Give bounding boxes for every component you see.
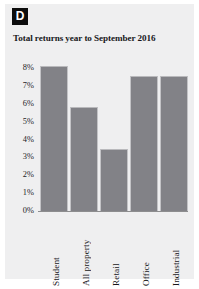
figure-panel-d: D Total returns year to September 2016 8… <box>0 0 199 289</box>
y-axis-tick-2: 2% <box>10 171 34 179</box>
bar-retail <box>100 149 128 211</box>
plot-area: 8% 7% 6% 5% 4% 3% 2% 1% 0% <box>38 60 188 212</box>
bar-student <box>40 66 68 211</box>
bar-office <box>130 76 158 211</box>
x-axis-label-student: Student <box>50 216 62 286</box>
y-axis-tick-3: 3% <box>10 153 34 161</box>
y-axis-tick-6: 6% <box>10 100 34 108</box>
x-axis-label-retail: Retail <box>110 216 122 286</box>
bar-industrial <box>160 76 188 211</box>
y-axis-tick-1: 1% <box>10 189 34 197</box>
y-axis-tick-5: 5% <box>10 118 34 126</box>
x-axis-label-industrial: Industrial <box>170 216 182 286</box>
x-axis-baseline <box>38 211 188 212</box>
panel-label-badge: D <box>12 8 28 25</box>
bar-all-property <box>70 107 98 211</box>
y-axis-tick-4: 4% <box>10 136 34 144</box>
x-axis-label-office: Office <box>140 216 152 286</box>
y-axis-tick-7: 7% <box>10 82 34 90</box>
x-axis-label-all-property: All property <box>80 216 92 286</box>
y-axis-tick-0: 0% <box>10 207 34 215</box>
y-axis-tick-8: 8% <box>10 64 34 72</box>
chart-title: Total returns year to September 2016 <box>13 33 188 44</box>
